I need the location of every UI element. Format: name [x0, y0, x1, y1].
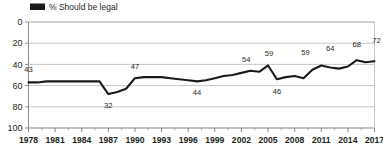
- x-tick-label-1996: 1996: [179, 135, 198, 145]
- x-tick-label-2011: 2011: [312, 135, 331, 145]
- x-tick-label-1981: 1981: [46, 135, 65, 145]
- data-label-2003: 54: [242, 55, 250, 64]
- data-label-1978: 43: [24, 65, 32, 74]
- x-tick-label-2008: 2008: [285, 135, 304, 145]
- x-tick-label-2014: 2014: [338, 135, 357, 145]
- y-tick-label-0: 100: [7, 123, 22, 133]
- plot-frame: [29, 22, 375, 128]
- y-tick-label-20: 80: [12, 102, 22, 112]
- data-series-should-be-legal: [29, 60, 375, 94]
- data-label-1997: 44: [193, 88, 201, 97]
- line-chart: % Should be legal 100806040200 197819811…: [0, 0, 383, 153]
- x-tick-label-1990: 1990: [125, 135, 144, 145]
- legend-swatch-should-be-legal: [30, 4, 45, 11]
- x-tick-label-1984: 1984: [72, 135, 91, 145]
- data-label-2017: 72: [372, 36, 380, 45]
- series-path-should-be-legal: [29, 60, 375, 94]
- data-label-2006: 46: [273, 87, 281, 96]
- data-labels: 4332474454594659646872: [24, 36, 380, 110]
- x-tick-label-2005: 2005: [258, 135, 277, 145]
- legend-label-should-be-legal: % Should be legal: [49, 2, 118, 12]
- data-label-1990: 47: [131, 62, 139, 71]
- x-tick-label-1993: 1993: [152, 135, 171, 145]
- chart-canvas: % Should be legal 100806040200 197819811…: [0, 0, 383, 153]
- y-tick-label-80: 20: [12, 38, 22, 48]
- y-tick-label-100: 0: [17, 17, 22, 27]
- y-tick-label-40: 60: [12, 81, 22, 91]
- data-label-2012: 64: [326, 44, 334, 53]
- chart-legend: % Should be legal: [30, 2, 118, 12]
- data-label-1987: 32: [104, 101, 112, 110]
- x-tick-label-1987: 1987: [99, 135, 118, 145]
- y-axis-ticks: 100806040200: [7, 17, 28, 133]
- x-tick-label-2002: 2002: [232, 135, 251, 145]
- data-label-2009: 59: [301, 48, 309, 57]
- x-tick-label-2017: 2017: [365, 135, 383, 145]
- x-axis-ticks: 1978198119841987199019931996199920022005…: [19, 128, 383, 145]
- gridlines: [29, 22, 375, 107]
- y-tick-label-60: 40: [12, 60, 22, 70]
- x-tick-label-1999: 1999: [205, 135, 224, 145]
- data-label-2005: 59: [265, 49, 273, 58]
- x-tick-label-1978: 1978: [19, 135, 38, 145]
- data-label-2015: 68: [353, 40, 361, 49]
